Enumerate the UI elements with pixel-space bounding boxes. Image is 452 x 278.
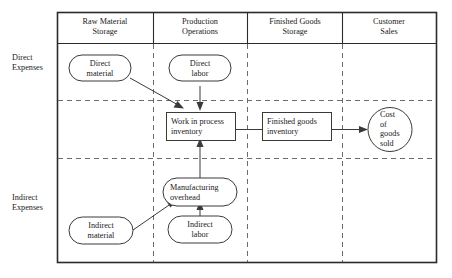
cost-flow-diagram: Raw Material Storage Production Operatio… — [0, 0, 452, 278]
node-indirect-labor-line2: labor — [192, 230, 209, 239]
node-direct-material-line2: material — [87, 69, 115, 78]
column-header-raw-material-storage-line1: Raw Material — [83, 17, 129, 26]
node-cost-of-goods-sold[interactable]: Cost of goods sold — [368, 108, 412, 152]
node-cost-of-goods-sold-line4: sold — [380, 139, 394, 148]
node-indirect-material-line1: Indirect — [88, 221, 114, 230]
node-direct-labor-line2: labor — [192, 69, 209, 78]
node-manufacturing-overhead-line1: Manufacturing — [170, 183, 219, 192]
node-manufacturing-overhead-line2: overhead — [170, 193, 200, 202]
node-cost-of-goods-sold-line2: of — [380, 120, 387, 129]
column-header-raw-material-storage-line2: Storage — [92, 27, 117, 36]
edge-direct-material-to-wip-arrow — [174, 101, 185, 109]
edge-finished-goods-to-cogs — [331, 126, 368, 133]
row-label-direct-expenses: Direct Expenses — [12, 53, 43, 72]
node-work-in-process-inventory[interactable]: Work in process inventory — [167, 113, 236, 141]
node-indirect-labor-line1: Indirect — [187, 220, 213, 229]
column-header-finished-goods-storage-line1: Finished Goods — [269, 17, 321, 26]
edge-indirect-material-to-overhead-line — [133, 203, 172, 230]
node-indirect-labor[interactable]: Indirect labor — [168, 216, 232, 243]
edge-direct-labor-to-wip — [197, 86, 204, 111]
column-header-production-operations-line2: Operations — [182, 27, 218, 36]
column-header-production-operations: Production Operations — [182, 17, 218, 36]
node-finished-goods-inventory[interactable]: Finished goods inventory — [263, 113, 332, 141]
column-header-raw-material-storage: Raw Material Storage — [83, 17, 129, 36]
node-manufacturing-overhead[interactable]: Manufacturing overhead — [163, 178, 237, 206]
node-direct-labor[interactable]: Direct labor — [169, 55, 231, 81]
node-direct-material[interactable]: Direct material — [69, 55, 131, 81]
node-direct-labor-line1: Direct — [190, 59, 211, 68]
node-indirect-material-line2: material — [88, 231, 116, 240]
column-header-production-operations-line1: Production — [182, 17, 218, 26]
node-finished-goods-inventory-line2: inventory — [267, 127, 299, 136]
node-indirect-material[interactable]: Indirect material — [69, 217, 133, 244]
row-label-indirect-expenses-line1: Indirect — [12, 193, 38, 202]
column-header-customer-sales-line1: Customer — [373, 17, 405, 26]
edge-direct-material-to-wip — [130, 78, 184, 109]
row-label-direct-expenses-line1: Direct — [12, 53, 33, 62]
edge-direct-labor-to-wip-arrow — [197, 102, 204, 111]
column-header-customer-sales-line2: Sales — [380, 27, 397, 36]
node-work-in-process-inventory-line2: inventory — [171, 127, 203, 136]
node-finished-goods-inventory-line1: Finished goods — [267, 117, 317, 126]
node-cost-of-goods-sold-line1: Cost — [380, 110, 396, 119]
diagram-page: Raw Material Storage Production Operatio… — [0, 0, 452, 278]
node-cost-of-goods-sold-line3: goods — [380, 129, 400, 138]
row-label-indirect-expenses-line2: Expenses — [12, 203, 43, 212]
node-work-in-process-inventory-line1: Work in process — [171, 117, 224, 126]
column-header-customer-sales: Customer Sales — [373, 17, 405, 36]
column-header-finished-goods-storage: Finished Goods Storage — [269, 17, 321, 36]
node-direct-material-line1: Direct — [90, 59, 111, 68]
row-label-direct-expenses-line2: Expenses — [12, 63, 43, 72]
column-header-finished-goods-storage-line2: Storage — [282, 27, 307, 36]
edge-direct-material-to-wip-line — [130, 78, 180, 106]
row-label-indirect-expenses: Indirect Expenses — [12, 193, 43, 212]
edge-finished-goods-to-cogs-arrow — [359, 126, 368, 133]
